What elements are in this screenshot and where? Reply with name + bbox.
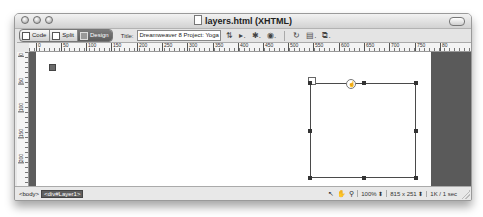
resize-handle-w[interactable] <box>308 129 312 133</box>
resize-handle-sw[interactable] <box>308 176 312 180</box>
resize-handle-nw[interactable] <box>308 81 312 85</box>
document-toolbar: Code Split Design Title: Dreamweaver 8 P… <box>15 29 471 42</box>
split-icon <box>52 32 60 40</box>
resize-handle-s[interactable] <box>362 176 366 180</box>
resize-handle-n[interactable] <box>362 81 366 85</box>
file-management-icon[interactable]: ⇅ <box>226 30 233 41</box>
layer-anchor-icon[interactable] <box>49 64 56 71</box>
horizontal-ruler[interactable]: 0 50 100 150 200 250 300 350 400 450 500… <box>29 42 471 52</box>
title-bar[interactable]: layers.html (XHTML) <box>15 14 471 29</box>
hand-cursor-icon: ☝ <box>346 79 356 89</box>
window-resize-grip[interactable] <box>461 190 470 199</box>
zoom-level-select[interactable]: 100% ⬍ <box>357 190 383 197</box>
canvas-margin-left <box>29 52 36 186</box>
view-options-icon[interactable]: ▤. <box>306 30 316 41</box>
toolbar-toggle-button[interactable] <box>449 17 465 26</box>
window-title: layers.html (XHTML) <box>15 15 471 26</box>
validate-icon[interactable]: ⧉. <box>322 30 330 41</box>
toolbar-separator <box>284 31 285 41</box>
title-label: Title: <box>121 33 134 39</box>
split-view-button[interactable]: Split <box>50 30 78 41</box>
zoom-tool-icon[interactable]: ⚲ <box>349 190 354 198</box>
status-bar: <body> <div#Layer1> ↖ ✋ ⚲ 100% ⬍ 815 x 2… <box>15 186 471 200</box>
canvas-margin-right <box>431 52 471 186</box>
view-mode-group: Code Split Design <box>19 29 113 42</box>
resize-handle-e[interactable] <box>414 129 418 133</box>
layer1-div[interactable]: ☝ <box>310 83 416 178</box>
debug-icon[interactable]: ✱. <box>252 30 261 41</box>
design-view-button[interactable]: Design <box>78 30 112 41</box>
design-canvas[interactable]: ☝ <box>36 52 431 186</box>
visual-aids-icon[interactable]: ◉. <box>267 30 276 41</box>
vertical-ruler[interactable]: 0 50 100 150 200 <box>17 52 29 186</box>
status-tools: ↖ ✋ ⚲ 100% ⬍ 815 x 251 ⬍ 1K / 1 sec <box>328 190 471 198</box>
resize-handle-ne[interactable] <box>414 81 418 85</box>
code-view-button[interactable]: Code <box>20 30 50 41</box>
document-window: layers.html (XHTML) Code Split Design Ti… <box>14 13 472 201</box>
preview-icon[interactable]: ▸. <box>239 30 245 41</box>
window-size-select[interactable]: 815 x 251 ⬍ <box>386 190 423 197</box>
hand-tool-icon[interactable]: ✋ <box>337 190 346 198</box>
toolbar-icons: ⇅ ▸. ✱. ◉. ↻ ▤. ⧉. <box>226 30 330 41</box>
window-title-text: layers.html (XHTML) <box>205 16 292 26</box>
document-icon <box>194 15 202 25</box>
code-icon <box>22 32 30 40</box>
design-icon <box>80 32 88 40</box>
resize-handle-se[interactable] <box>414 176 418 180</box>
download-time: 1K / 1 sec <box>426 191 457 197</box>
select-tool-icon[interactable]: ↖ <box>328 190 334 198</box>
tag-selector-body[interactable]: <body> <box>19 191 39 197</box>
tag-selector-div[interactable]: <div#Layer1> <box>41 190 83 198</box>
page-title-input[interactable]: Dreamweaver 8 Project: Yoga S <box>137 30 221 41</box>
refresh-icon[interactable]: ↻ <box>293 30 300 41</box>
